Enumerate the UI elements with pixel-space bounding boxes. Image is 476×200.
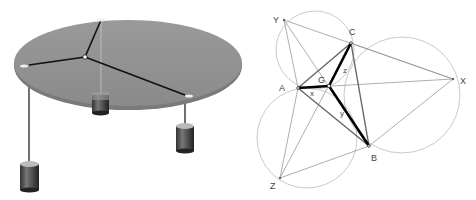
geometry-figure: Y C X A G B Z x y z <box>257 11 466 191</box>
label-y-segment: y <box>340 109 344 118</box>
label-z-point: Z <box>270 181 276 191</box>
label-c: C <box>349 27 356 37</box>
diagram-canvas: Y C X A G B Z x y z <box>0 0 476 200</box>
label-x-segment: x <box>310 89 314 98</box>
label-z-segment: z <box>343 66 347 75</box>
weight-right <box>176 123 194 154</box>
circle-ab <box>257 88 357 188</box>
segment-y <box>329 86 369 146</box>
table-figure <box>14 19 242 193</box>
hole-left <box>20 64 28 67</box>
label-b: B <box>371 153 377 163</box>
point-g <box>327 84 330 87</box>
hole-top <box>98 19 105 22</box>
label-g: G <box>318 75 325 85</box>
hole-right <box>185 94 193 97</box>
weight-left <box>20 161 39 193</box>
knot <box>83 55 87 59</box>
label-a: A <box>279 83 285 93</box>
label-x-point: X <box>460 76 466 86</box>
label-y-point: Y <box>273 15 279 25</box>
